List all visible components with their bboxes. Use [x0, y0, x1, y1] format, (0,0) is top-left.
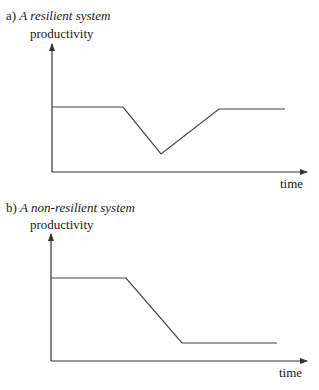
panel-b-y-axis-label: productivity [30, 217, 94, 232]
panel-a-y-axis-label: productivity [30, 26, 94, 41]
panel-b-prefix: b) [6, 200, 20, 215]
resilience-diagram: a) A resilient system productivity time … [0, 0, 319, 390]
panel-a-title-text: A resilient system [18, 8, 110, 23]
panel-a-title: a) A resilient system [6, 8, 110, 23]
panel-a-x-axis-label: time [280, 176, 303, 191]
panel-a-productivity-curve [52, 107, 285, 154]
panel-a-prefix: a) [6, 8, 19, 23]
panel-b-title-text: A non-resilient system [19, 200, 135, 215]
panel-b-productivity-curve [51, 278, 277, 343]
panel-a: a) A resilient system productivity time [6, 8, 307, 191]
panel-b: b) A non-resilient system productivity t… [6, 200, 307, 380]
panel-b-x-axis-label: time [279, 365, 302, 380]
panel-b-title: b) A non-resilient system [6, 200, 135, 215]
